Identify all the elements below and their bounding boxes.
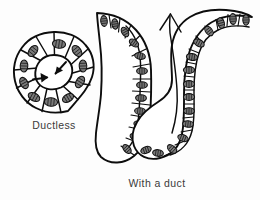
gland-comparison-figure: .ink { fill: none; stroke: #0d0d0d; stro… (0, 0, 260, 200)
caption-ductless: Ductless (0, 119, 108, 131)
ductless-lumen (35, 55, 72, 89)
diagram-canvas: .ink { fill: none; stroke: #0d0d0d; stro… (0, 0, 260, 200)
caption-with-a-duct: With a duct (92, 177, 222, 189)
duct-gland-group (96, 10, 252, 163)
ductless-gland-group (14, 32, 94, 113)
